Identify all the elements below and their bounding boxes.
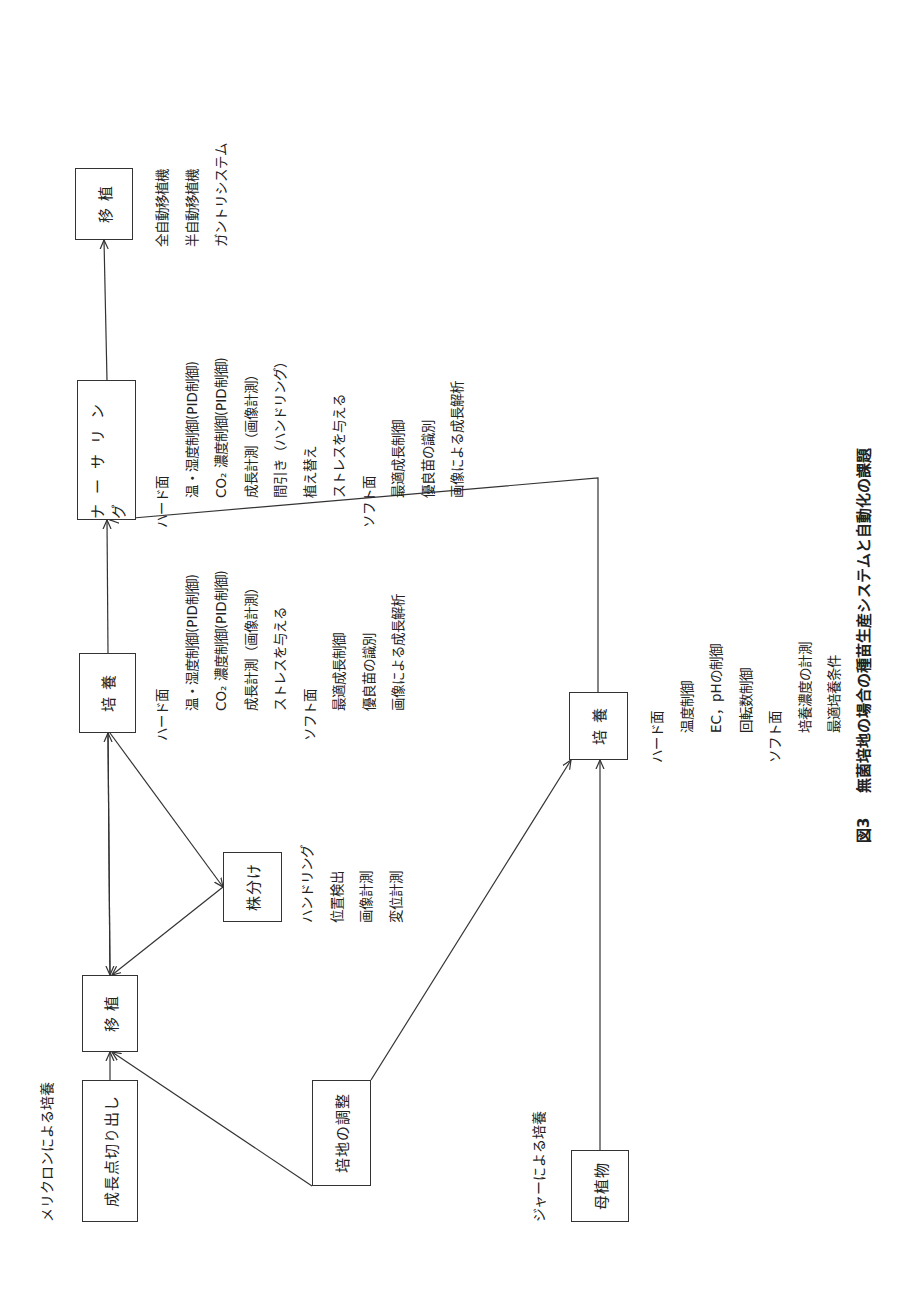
nursery-task-list: ハード面 温・湿度制御(PID制御) CO₂ 濃度制御(PID制御) 成長計測（… [148,355,473,528]
task-item: 温度制御 [673,642,703,763]
task-item: 成長計測（画像計測） [237,570,267,741]
task-item: 画像による成長解析 [443,355,473,528]
diagram-canvas: メリクロンによる培養 ジャーによる培養 成長点切り出し 移 植 株分け 培地の調… [0,0,910,1293]
figure-title: 無菌培地の場合の種苗生産システムと自動化の課題 [855,448,873,793]
jar-culture-label: ジャーによる培養 [532,1111,546,1222]
task-item: 優良苗の識別 [414,355,444,528]
hard-heading: ハード面 [148,355,178,528]
growth-point-excision-box: 成長点切り出し [82,1080,138,1222]
task-item: CO₂ 濃度制御(PID制御) [207,570,237,741]
mother-plant-box: 母植物 [571,1150,629,1222]
transplant-left-box: 移 植 [82,975,138,1052]
soft-heading: ソフト面 [355,355,385,528]
task-item: 回転数制御 [732,642,762,763]
culture-bottom-box: 培 養 [569,692,628,760]
task-item: ハンドリング [293,845,323,923]
culture-bottom-task-list: ハード面 温度制御 EC，pHの制御 回転数制御 ソフト面 培養濃度の計測 最適… [643,642,850,763]
task-item: 間引き（ハンドリング） [266,355,296,528]
transplant-task-list: 全自動移植機 半自動移植機 ガントリシステム [148,143,237,247]
task-item: 温・湿度制御(PID制御) [178,570,208,741]
task-item: EC，pHの制御 [702,642,732,763]
transplant-right-box: 移 植 [75,168,133,240]
hard-heading: ハード面 [643,642,673,763]
soft-heading: ソフト面 [761,642,791,763]
nursery-box: ナーサリング [77,380,136,520]
task-item: 植え替え [296,355,326,528]
task-item: 画像計測 [352,845,382,923]
task-item: 半自動移植機 [178,143,208,247]
task-item: 最適成長制御 [325,570,355,741]
task-item: 温・湿度制御(PID制御) [178,355,208,528]
task-item: ストレスを与える [266,570,296,741]
task-item: ガントリシステム [207,143,237,247]
culture-top-box: 培 養 [79,653,136,733]
task-item: 位置検出 [323,845,353,923]
culture-top-task-list: ハード面 温・湿度制御(PID制御) CO₂ 濃度制御(PID制御) 成長計測（… [148,570,414,741]
figure-number: 図3 [855,818,873,843]
task-item: 全自動移植機 [148,143,178,247]
task-item: 画像による成長解析 [384,570,414,741]
task-item: 最適培養条件 [820,642,850,763]
task-item: 培養濃度の計測 [791,642,821,763]
medium-preparation-box: 培地の調整 [312,1080,371,1186]
division-box: 株分け [223,852,282,922]
soft-heading: ソフト面 [296,570,326,741]
figure-caption: 図3 無菌培地の場合の種苗生産システムと自動化の課題 [852,448,873,843]
division-task-list: ハンドリング 位置検出 画像計測 変位計測 [293,845,411,923]
task-item: 優良苗の識別 [355,570,385,741]
meristem-culture-label: メリクロンによる培養 [40,1082,54,1222]
hard-heading: ハード面 [148,570,178,741]
task-item: CO₂ 濃度制御(PID制御) [207,355,237,528]
task-item: 成長計測（画像計測） [237,355,267,528]
task-item: 変位計測 [382,845,412,923]
task-item: ストレスを与える [325,355,355,528]
task-item: 最適成長制御 [384,355,414,528]
